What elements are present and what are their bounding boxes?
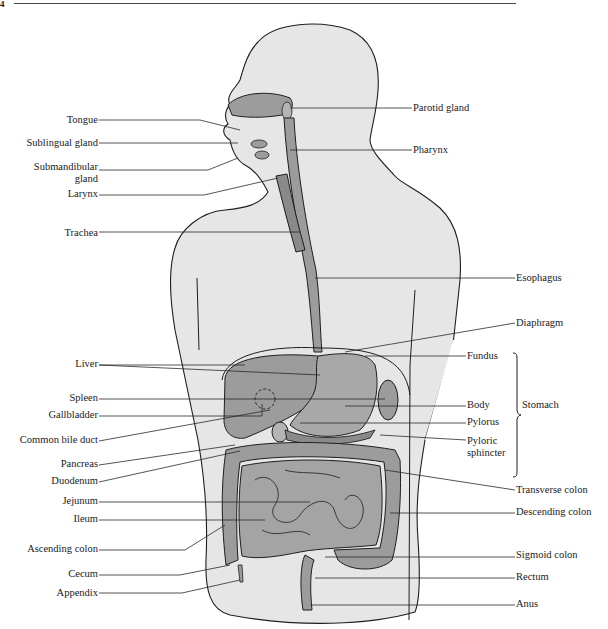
submandibular-gland-shape [255, 151, 269, 159]
label-liver: Liver [75, 358, 98, 370]
label-body: Body [467, 399, 490, 411]
label-jejunum: Jejunum [62, 495, 98, 507]
label-ileum: Ileum [74, 513, 99, 525]
label-larynx: Larynx [68, 188, 98, 200]
label-descending-colon: Descending colon [516, 506, 592, 518]
label-fundus: Fundus [467, 350, 498, 362]
label-esophagus: Esophagus [516, 272, 562, 284]
label-appendix: Appendix [57, 587, 98, 599]
leader-line [99, 120, 240, 130]
label-trachea: Trachea [65, 227, 98, 239]
label-diaphragm: Diaphragm [516, 317, 563, 329]
label-pylorus: Pylorus [467, 416, 499, 428]
label-pancreas: Pancreas [61, 458, 98, 470]
label-common-bile-duct: Common bile duct [20, 434, 98, 446]
label-tongue: Tongue [67, 114, 98, 126]
label-gallbladder: Gallbladder [48, 409, 98, 421]
parotid-gland-shape [282, 102, 292, 120]
label-cecum: Cecum [68, 568, 98, 580]
label-duodenum: Duodenum [51, 475, 98, 487]
spleen-shape [378, 380, 398, 420]
label-submandibular-gland: Submandibulargland [34, 161, 98, 185]
label-anus: Anus [516, 598, 538, 610]
label-rectum: Rectum [516, 571, 549, 583]
label-parotid-gland: Parotid gland [413, 102, 469, 114]
label-transverse-colon: Transverse colon [516, 484, 588, 496]
leader-line [99, 158, 238, 170]
label-pyloric-sphincter: Pyloricsphincter [467, 435, 506, 459]
small-intestine-shape [239, 460, 382, 558]
label-stomach: Stomach [522, 399, 559, 411]
label-sublingual-gland: Sublingual gland [27, 137, 98, 149]
label-sigmoid-colon: Sigmoid colon [516, 549, 578, 561]
label-pharynx: Pharynx [413, 144, 448, 156]
label-ascending-colon: Ascending colon [27, 543, 98, 555]
stomach-brace [512, 352, 522, 478]
label-spleen: Spleen [69, 392, 98, 404]
digestive-system-diagram [0, 0, 608, 629]
leader-line [99, 178, 278, 195]
sublingual-gland-shape [251, 140, 267, 148]
